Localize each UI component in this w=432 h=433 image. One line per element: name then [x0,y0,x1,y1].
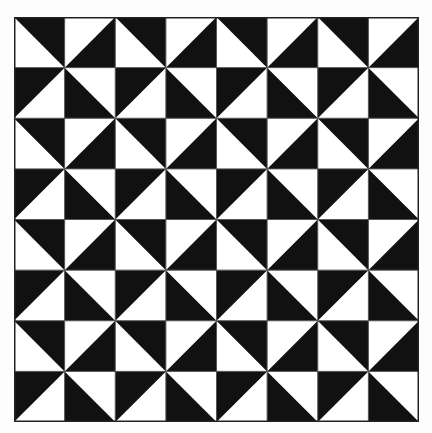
tile-grid [14,17,419,422]
triangle-tile-pattern [14,17,419,422]
figure-canvas [0,0,432,433]
